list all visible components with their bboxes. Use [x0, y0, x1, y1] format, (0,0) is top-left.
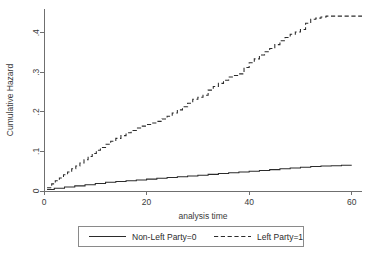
y-tick-label: .2 — [31, 108, 41, 115]
legend-label-left-party: Left Party=1 — [257, 232, 303, 242]
y-tick-label: .4 — [31, 29, 41, 36]
legend-label-non-left-party: Non-Left Party=0 — [132, 232, 197, 242]
x-tick-label: 40 — [244, 197, 254, 207]
chart-svg: 0.1.2.3.4 0204060 Cumulative Hazard anal… — [0, 0, 380, 260]
y-tick-label: 0 — [31, 188, 41, 193]
x-axis-title: analysis time — [178, 211, 227, 221]
cumulative-hazard-chart: 0.1.2.3.4 0204060 Cumulative Hazard anal… — [0, 0, 380, 260]
x-axis-ticks: 0204060 — [42, 191, 357, 207]
x-tick-label: 0 — [42, 197, 47, 207]
data-series-layer — [47, 16, 362, 189]
y-tick-label: .1 — [31, 148, 41, 155]
y-tick-label: .3 — [31, 68, 41, 75]
series-line-non-left-party — [47, 165, 352, 189]
y-axis-ticks: 0.1.2.3.4 — [31, 29, 44, 193]
x-tick-label: 20 — [142, 197, 152, 207]
legend: Non-Left Party=0 Left Party=1 — [79, 227, 304, 247]
y-axis-title: Cumulative Hazard — [5, 64, 15, 137]
plot-axes — [44, 9, 362, 191]
x-tick-label: 60 — [347, 197, 357, 207]
series-line-left-party — [47, 16, 362, 188]
